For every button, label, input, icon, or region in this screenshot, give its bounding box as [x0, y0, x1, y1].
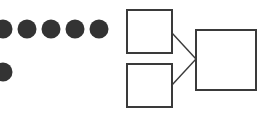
small-box-top — [127, 10, 172, 53]
dot-top-5 — [90, 20, 109, 39]
dot-top-2 — [18, 20, 37, 39]
large-box — [196, 30, 256, 90]
diagram-canvas — [0, 0, 265, 118]
diagram-figure — [0, 0, 265, 118]
dot-top-4 — [66, 20, 85, 39]
dot-top-3 — [42, 20, 61, 39]
small-box-bottom — [127, 64, 172, 107]
